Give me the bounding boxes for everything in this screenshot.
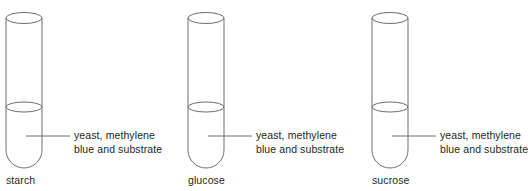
tube-body-outline	[372, 18, 408, 168]
liquid-surface-ellipse	[372, 102, 408, 112]
annotation-line-1: yeast, methylene	[440, 129, 528, 143]
tube-rim-ellipse	[372, 13, 408, 24]
annotation-text-sucrose: yeast, methylene blue and substrate	[440, 129, 528, 156]
substrate-label-sucrose: sucrose	[372, 174, 409, 187]
annotation-line-2: blue and substrate	[440, 143, 528, 157]
